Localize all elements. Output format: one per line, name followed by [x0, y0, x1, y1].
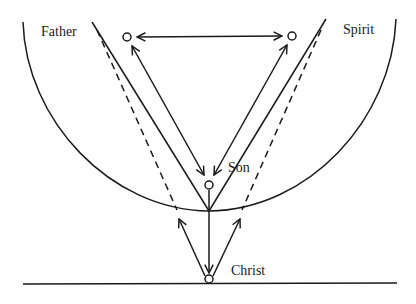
father-node	[123, 33, 131, 41]
father-label: Father	[41, 25, 77, 39]
solid-v-left-line	[92, 22, 209, 211]
christ-node	[205, 275, 213, 283]
dashed-left-line	[97, 30, 177, 210]
son-node	[205, 181, 213, 189]
christ-left-arrow	[179, 219, 205, 276]
dashed-right-line	[242, 30, 321, 210]
son-father-arrow	[132, 46, 204, 175]
trinity-diagram	[0, 0, 416, 304]
solid-v-right-line	[209, 19, 326, 211]
son-spirit-arrow	[214, 45, 287, 175]
christ-label: Christ	[231, 264, 265, 278]
spirit-node	[288, 32, 296, 40]
son-label: Son	[228, 161, 250, 175]
father-spirit-arrow	[137, 36, 282, 37]
spirit-label: Spirit	[343, 23, 374, 37]
